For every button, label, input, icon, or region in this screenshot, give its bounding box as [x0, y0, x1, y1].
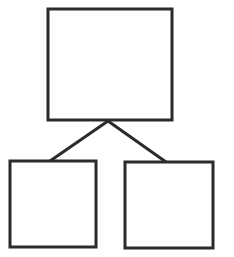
node-child-left-box[interactable] — [10, 161, 96, 247]
hierarchy-diagram — [0, 0, 234, 257]
node-child-right-box[interactable] — [125, 162, 213, 248]
node-parent-box[interactable] — [48, 9, 172, 120]
diagram-canvas — [0, 0, 234, 257]
connector-parent-to-left-child — [50, 121, 108, 161]
connector-parent-to-right-child — [108, 121, 166, 162]
